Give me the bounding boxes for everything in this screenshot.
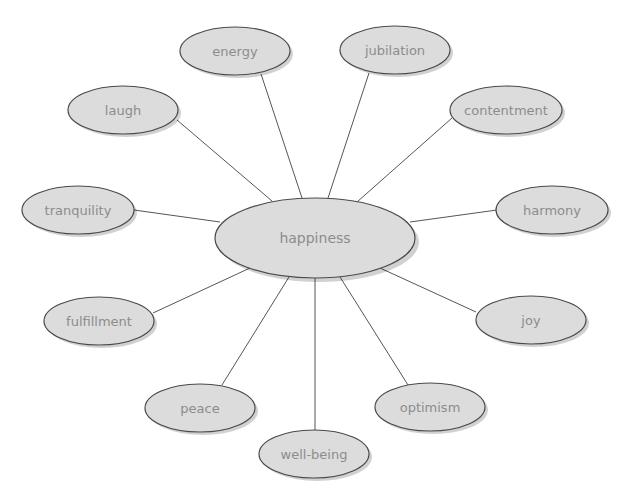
edge-to-jubilation <box>328 73 369 198</box>
node-tranquility: tranquility <box>22 186 137 237</box>
edge-to-energy <box>261 74 302 198</box>
edge-to-joy <box>380 268 476 312</box>
center-node: happiness <box>215 198 419 282</box>
node-contentment: contentment <box>450 86 565 137</box>
node-label: optimism <box>400 400 461 415</box>
node-label: fulfillment <box>66 314 132 329</box>
edge-to-contentment <box>357 118 452 202</box>
node-label: peace <box>180 401 219 416</box>
node-harmony: harmony <box>496 186 611 237</box>
center-node-label: happiness <box>279 230 350 246</box>
node-label: energy <box>212 44 258 59</box>
node-energy: energy <box>180 27 293 78</box>
node-optimism: optimism <box>375 383 488 434</box>
edge-to-tranquility <box>134 210 220 222</box>
edge-to-harmony <box>410 210 497 222</box>
word-web-diagram: energyjubilationlaughcontentmenttranquil… <box>0 0 632 499</box>
edge-to-fulfillment <box>153 268 250 313</box>
node-label: well-being <box>281 447 348 462</box>
node-peace: peace <box>145 384 258 435</box>
node-label: tranquility <box>45 203 112 218</box>
node-label: joy <box>520 313 541 328</box>
node-well-being: well-being <box>259 430 372 481</box>
node-fulfillment: fulfillment <box>44 297 157 348</box>
edge-to-laugh <box>177 120 272 201</box>
node-label: contentment <box>464 103 548 118</box>
edge-to-optimism <box>340 277 408 385</box>
node-jubilation: jubilation <box>340 26 453 77</box>
node-label: jubilation <box>364 43 425 58</box>
edge-to-peace <box>222 277 289 385</box>
node-label: harmony <box>523 203 581 218</box>
node-label: laugh <box>105 103 141 118</box>
node-laugh: laugh <box>68 86 181 137</box>
node-joy: joy <box>476 296 589 347</box>
